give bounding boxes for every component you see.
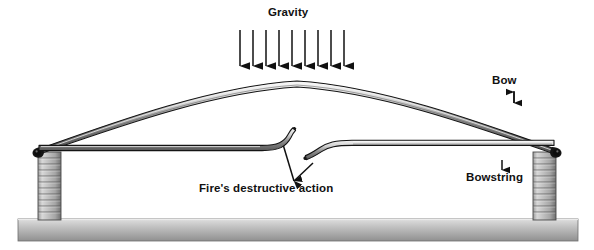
bowstring-right-segment (303, 140, 554, 160)
label-bow: Bow (492, 74, 517, 86)
label-gravity: Gravity (268, 6, 308, 18)
label-fire-destructive-action: Fire's destructive action (199, 182, 333, 194)
left-pier (38, 152, 61, 220)
label-bowstring: Bowstring (466, 171, 523, 183)
ground (18, 219, 578, 241)
gravity-arrows (240, 30, 344, 66)
bow-bowstring-figure (0, 0, 594, 250)
right-pier (533, 152, 556, 220)
diagram-canvas: Gravity Bow Bowstring Fire's destructive… (0, 0, 594, 250)
fire-pointer-arrows (284, 146, 314, 181)
bow-right-tip (550, 147, 561, 158)
